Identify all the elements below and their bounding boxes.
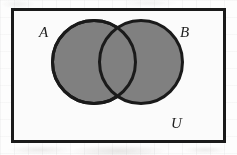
set-a-label: A [39, 25, 48, 40]
set-b-circle [100, 21, 183, 104]
set-b-label: B [180, 25, 189, 40]
venn-diagram-graphic [0, 0, 237, 155]
venn-diagram-figure: A B U [0, 0, 237, 155]
universe-label: U [171, 116, 182, 131]
